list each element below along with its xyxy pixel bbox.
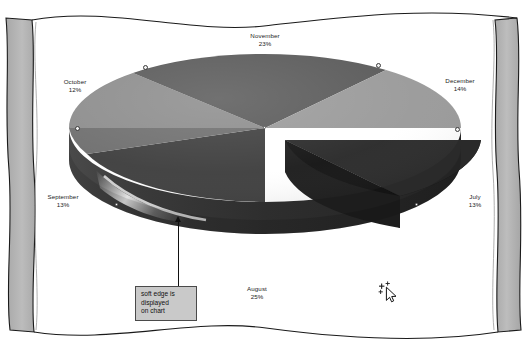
label-percent: 23% xyxy=(215,40,315,48)
data-label-august: August 25% xyxy=(212,285,302,300)
data-label-december: December 14% xyxy=(415,77,505,92)
label-name: September xyxy=(18,193,108,201)
selection-handle-top-left[interactable] xyxy=(143,65,148,70)
callout-leader-line xyxy=(178,219,179,287)
label-name: October xyxy=(35,78,115,86)
callout-line-2: displayed xyxy=(141,299,192,308)
label-name: December xyxy=(415,77,505,85)
selection-handle-right[interactable] xyxy=(455,127,460,132)
selection-handle-top-right[interactable] xyxy=(376,63,381,68)
label-percent: 13% xyxy=(18,201,108,209)
callout-arrowhead xyxy=(175,216,181,222)
label-name: August xyxy=(212,285,302,293)
selection-handle-center[interactable] xyxy=(263,126,266,129)
data-label-july: July 13% xyxy=(440,193,510,208)
callout-line-3: on chart xyxy=(141,307,192,316)
data-label-november: November 23% xyxy=(215,32,315,47)
selection-handle-bottom-left[interactable] xyxy=(115,203,118,206)
data-label-september: September 13% xyxy=(18,193,108,208)
move-copy-cursor xyxy=(378,281,400,305)
chart-object[interactable]: November 23% December 14% July 13% Augus… xyxy=(0,0,528,345)
callout-line-1: soft edge is xyxy=(141,290,192,299)
selection-handle-left[interactable] xyxy=(75,126,80,131)
label-percent: 13% xyxy=(440,201,510,209)
screenshot-canvas: November 23% December 14% July 13% Augus… xyxy=(0,0,528,345)
selection-handle-bottom-right[interactable] xyxy=(415,203,418,206)
data-label-october: October 12% xyxy=(35,78,115,93)
label-name: November xyxy=(215,32,315,40)
label-name: July xyxy=(440,193,510,201)
label-percent: 14% xyxy=(415,85,505,93)
label-percent: 25% xyxy=(212,293,302,301)
callout-textbox[interactable]: soft edge is displayed on chart xyxy=(135,286,197,321)
label-percent: 12% xyxy=(35,86,115,94)
